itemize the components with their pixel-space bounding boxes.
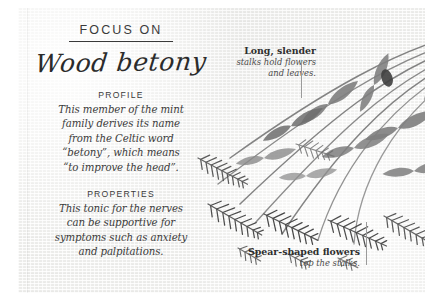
annotation-heading: Long, slender [204,46,316,57]
annotation-long-slender: Long, slender stalks hold flowers and le… [204,46,316,79]
annotation-sub-line: and leaves. [204,68,316,79]
page-crease-line [27,8,28,293]
section-body-profile: This member of the mint family derives i… [32,103,210,175]
body-line: symptoms such as anxiety [32,231,210,245]
section-heading-properties: PROPERTIES [32,190,210,199]
eyebrow-label: FOCUS ON [32,24,210,41]
annotation-heading: Spear-shaped flowers [214,247,360,258]
annotation-spear-shaped-flowers: Spear-shaped flowers top the stalks. [214,247,360,269]
annotation-sub-line: stalks hold flowers [204,57,316,68]
focus-on-card: FOCUS ON Wood betony PROFILE This member… [18,8,425,293]
body-line: This tonic for the nerves [32,202,210,216]
section-profile: PROFILE This member of the mint family d… [32,91,210,175]
body-line: “to improve the head”. [32,161,210,175]
section-heading-profile: PROFILE [32,91,210,100]
page-root: FOCUS ON Wood betony PROFILE This member… [0,0,443,307]
section-properties: PROPERTIES This tonic for the nerves can… [32,190,210,260]
annotation-sub-line: top the stalks. [214,258,360,269]
text-column: FOCUS ON Wood betony PROFILE This member… [32,24,210,260]
annotation-leader-line-bottom [366,222,367,265]
page-title: Wood betony [30,49,211,78]
body-line: “betony”, which means [32,146,210,160]
body-line: can be supportive for [32,216,210,230]
body-line: and palpitations. [32,245,210,259]
body-line: from the Celtic word [32,132,210,146]
annotation-leader-line-top [301,60,302,98]
section-body-properties: This tonic for the nerves can be support… [32,202,210,260]
plant-bud [379,68,395,89]
body-line: This member of the mint [32,103,210,117]
eyebrow-underline [69,41,173,42]
body-line: family derives its name [32,117,210,131]
